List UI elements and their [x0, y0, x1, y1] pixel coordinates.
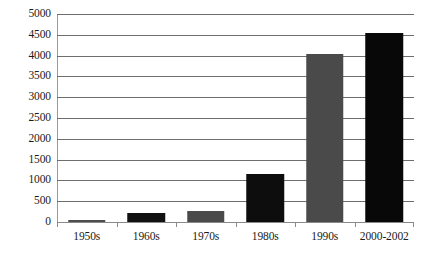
y-axis-tick-label: 4000	[0, 50, 51, 62]
x-axis-tick-label: 1950s	[57, 230, 117, 243]
y-axis-tick-label: 2000	[0, 133, 51, 145]
y-axis-tick-label: 0	[0, 216, 51, 228]
y-axis-tick-label: 4500	[0, 29, 51, 41]
x-axis-tick	[355, 222, 356, 227]
bar[interactable]	[128, 213, 165, 222]
y-axis-tick-label: 3000	[0, 91, 51, 103]
y-axis-tick-label: 1500	[0, 154, 51, 166]
x-axis-tick	[236, 222, 237, 227]
bar[interactable]	[247, 174, 284, 222]
y-axis-tick-label: 5000	[0, 8, 51, 20]
x-axis-tick-label: 1960s	[117, 230, 177, 243]
bar-series	[57, 14, 414, 222]
bar-slot	[295, 14, 355, 222]
y-axis-tick-label: 1000	[0, 174, 51, 186]
x-axis-ticks	[57, 222, 414, 227]
y-axis-tick-label: 500	[0, 195, 51, 207]
y-axis-tick-labels: 5000450040003500300025002000150010005000	[0, 0, 51, 263]
y-axis-tick-label: 2500	[0, 112, 51, 124]
y-axis-tick-label: 3500	[0, 70, 51, 82]
x-axis-tick	[413, 222, 414, 227]
x-axis-tick-labels: 1950s1960s1970s1980s1990s2000-2002	[57, 230, 414, 250]
x-axis-tick	[176, 222, 177, 227]
x-axis-tick	[295, 222, 296, 227]
bar-slot	[176, 14, 236, 222]
x-axis-tick-label: 2000-2002	[355, 230, 415, 243]
bar[interactable]	[187, 211, 224, 222]
bar-slot	[117, 14, 177, 222]
bar[interactable]	[366, 33, 403, 222]
x-axis-tick	[57, 222, 58, 227]
bar-chart: 5000450040003500300025002000150010005000…	[0, 0, 424, 263]
x-axis-tick-label: 1970s	[176, 230, 236, 243]
bar-slot	[236, 14, 296, 222]
x-axis-tick-label: 1980s	[236, 230, 296, 243]
x-axis-tick-label: 1990s	[295, 230, 355, 243]
bar-slot	[355, 14, 415, 222]
bar[interactable]	[306, 54, 343, 222]
bar-slot	[57, 14, 117, 222]
x-axis-tick	[117, 222, 118, 227]
